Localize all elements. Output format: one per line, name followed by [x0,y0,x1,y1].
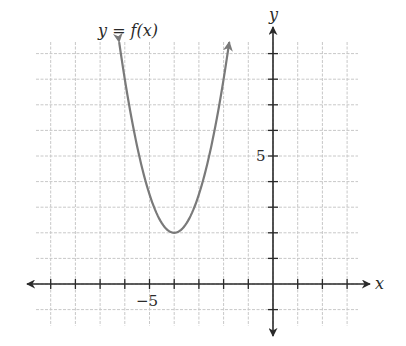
curve-label: y = f(x) [97,21,158,40]
y-tick-label-5: 5 [256,147,266,165]
y-axis-label: y [268,5,279,24]
x-axis-label: x [375,274,384,293]
graph: y = f(x) y x −5 5 [0,0,406,346]
x-tick-label-neg5: −5 [136,292,158,310]
